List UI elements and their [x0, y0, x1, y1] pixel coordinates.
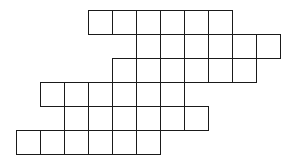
grid-cell [40, 130, 65, 155]
grid-cell [40, 82, 65, 107]
grid-cell [184, 34, 209, 59]
grid-cell [112, 130, 137, 155]
grid-cell [160, 58, 185, 83]
grid-cell [112, 82, 137, 107]
grid-cell [208, 58, 233, 83]
grid-cell [64, 130, 89, 155]
grid-cell [208, 34, 233, 59]
grid-cell [88, 82, 113, 107]
grid-cell [136, 130, 161, 155]
grid-cell [136, 10, 161, 35]
grid-cell [136, 106, 161, 131]
grid-diagram [0, 0, 292, 158]
grid-cell [184, 106, 209, 131]
grid-cell [16, 130, 41, 155]
grid-cell [232, 34, 257, 59]
grid-cell [136, 82, 161, 107]
grid-cell [184, 10, 209, 35]
grid-cell [88, 130, 113, 155]
grid-cell [136, 34, 161, 59]
grid-cell [160, 34, 185, 59]
grid-cell [112, 58, 137, 83]
grid-cell [112, 106, 137, 131]
grid-cell [160, 10, 185, 35]
grid-cell [232, 58, 257, 83]
grid-cell [64, 106, 89, 131]
grid-cell [136, 58, 161, 83]
grid-cell [88, 10, 113, 35]
grid-cell [64, 82, 89, 107]
grid-cell [208, 10, 233, 35]
grid-cell [160, 106, 185, 131]
grid-cell [112, 10, 137, 35]
grid-cell [256, 34, 281, 59]
grid-cell [88, 106, 113, 131]
grid-cell [160, 82, 185, 107]
grid-cell [184, 58, 209, 83]
